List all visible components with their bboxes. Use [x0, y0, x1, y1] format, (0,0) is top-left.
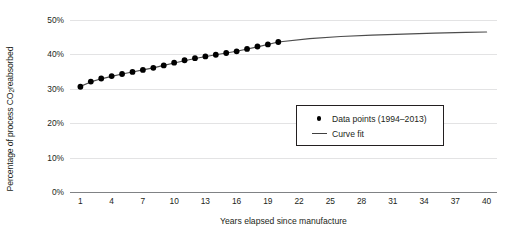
- y-axis-tick-label: 20%: [26, 118, 64, 128]
- chart-figure: Percentage of process CO2 reabsorbed 0%1…: [0, 0, 526, 238]
- data-point: [234, 48, 240, 54]
- y-axis-title-text-before: Percentage of process CO: [5, 93, 15, 192]
- data-point: [98, 76, 104, 82]
- data-point: [244, 46, 250, 52]
- data-point: [171, 60, 177, 66]
- x-axis-tick-label: 19: [253, 196, 283, 206]
- x-axis-tick-label: 28: [347, 196, 377, 206]
- x-axis-tick-label: 10: [159, 196, 189, 206]
- data-point: [109, 73, 115, 79]
- y-axis-tick-label: 50%: [26, 15, 64, 25]
- x-axis-tick-label: 31: [378, 196, 408, 206]
- legend-line-icon: [306, 133, 332, 134]
- data-point: [88, 79, 94, 85]
- data-point: [130, 69, 136, 75]
- y-axis-tick-label: 10%: [26, 153, 64, 163]
- legend-dot-icon: [306, 116, 332, 120]
- data-point: [78, 84, 84, 90]
- legend-label-data-points: Data points (1994–2013): [332, 114, 427, 124]
- x-axis-tick-label: 40: [472, 196, 502, 206]
- x-axis-tick-label: 1: [65, 196, 95, 206]
- y-axis-title-text-after: reabsorbed: [5, 47, 15, 89]
- y-axis-title-subscript: 2: [8, 89, 15, 92]
- data-point: [150, 65, 156, 71]
- x-axis-tick-label: 7: [128, 196, 158, 206]
- curve-fit-line: [80, 32, 486, 86]
- legend-item-curve-fit: Curve fit: [297, 126, 443, 141]
- x-axis-title: Years elapsed since manufacture: [70, 216, 497, 226]
- y-axis-tick-label: 40%: [26, 49, 64, 59]
- y-axis-tick-label: 30%: [26, 84, 64, 94]
- legend-label-curve-fit: Curve fit: [332, 129, 364, 139]
- data-point: [119, 71, 125, 77]
- x-axis-baseline: [70, 192, 497, 193]
- y-axis-tick-label: 0%: [26, 187, 64, 197]
- x-axis-tick-label: 4: [97, 196, 127, 206]
- data-point: [192, 55, 198, 61]
- x-axis-tick-label: 25: [315, 196, 345, 206]
- x-axis-tick-label: 22: [284, 196, 314, 206]
- y-axis-title: Percentage of process CO2 reabsorbed: [0, 0, 20, 238]
- data-point: [140, 67, 146, 73]
- legend-item-data-points: Data points (1994–2013): [297, 111, 443, 126]
- x-axis-tick-label: 37: [440, 196, 470, 206]
- data-point: [182, 57, 188, 63]
- chart-legend: Data points (1994–2013) Curve fit: [296, 105, 444, 146]
- data-point: [265, 42, 271, 48]
- data-points-group: [78, 39, 282, 90]
- data-point: [275, 39, 281, 45]
- data-point: [161, 63, 167, 69]
- data-point: [223, 50, 229, 56]
- data-point: [255, 44, 261, 50]
- data-point: [202, 54, 208, 60]
- x-axis-tick-label: 16: [222, 196, 252, 206]
- x-axis-tick-label: 13: [190, 196, 220, 206]
- x-axis-tick-label: 34: [409, 196, 439, 206]
- data-point: [213, 52, 219, 58]
